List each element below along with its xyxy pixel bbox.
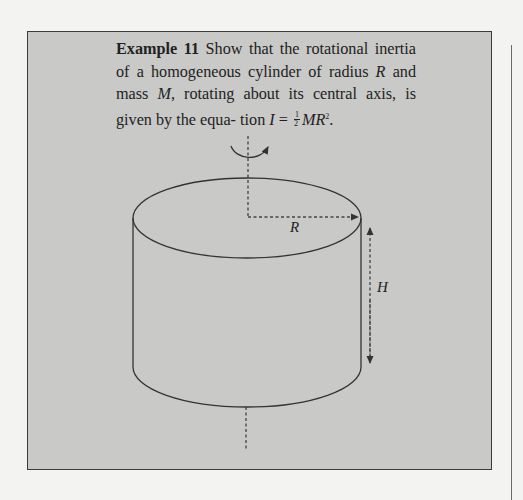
height-label: H [377,279,388,296]
radius-label: R [290,219,299,236]
cylinder-bottom-arc [133,367,361,407]
cylinder-top-ellipse [133,178,361,258]
cylinder-diagram [0,0,523,500]
rotation-arrow-icon [231,146,268,157]
